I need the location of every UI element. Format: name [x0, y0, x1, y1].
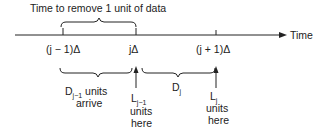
tick-label-j-minus-1: (j − 1)Δ: [46, 43, 80, 55]
tick-label-j-plus-1: (j + 1)Δ: [196, 43, 230, 55]
axis-arrow-icon: [279, 32, 287, 38]
level-label-current-line2: units: [206, 102, 228, 114]
arrival-brace-current: [142, 68, 215, 77]
level-label-prev-line2: units: [130, 105, 152, 117]
axis-label: Time: [290, 29, 313, 41]
arrow-up-icon: [134, 66, 139, 73]
arrow-up-icon: [214, 66, 219, 73]
level-label-current-line3: here: [208, 114, 229, 126]
arrival-label-prev-line2: arrive: [76, 97, 102, 109]
top-brace: [61, 18, 136, 27]
queue-timeline-diagram: Time to remove 1 unit of data Time (j − …: [0, 0, 327, 138]
arrival-label-current: Dj: [172, 81, 182, 96]
level-label-prev-line3: here: [131, 117, 152, 129]
tick-label-j: jΔ: [128, 43, 138, 55]
arrival-brace-prev: [60, 68, 132, 77]
brace-title: Time to remove 1 unit of data: [30, 2, 166, 14]
